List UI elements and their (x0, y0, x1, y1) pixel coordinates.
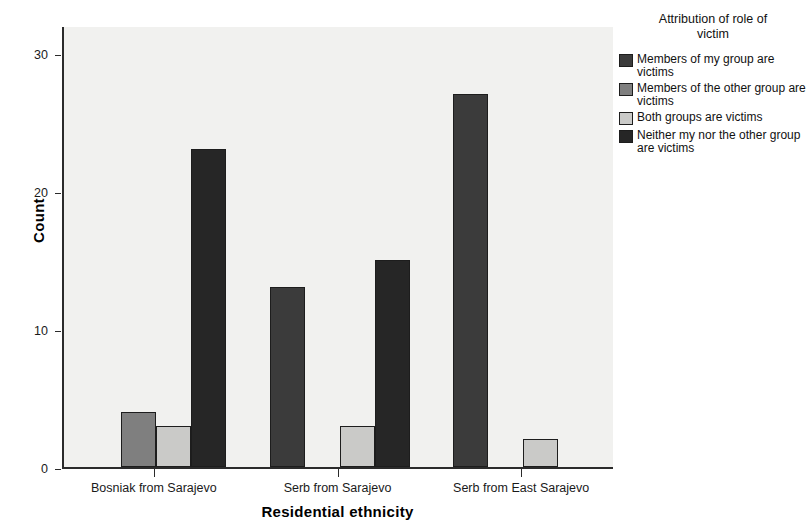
bar (191, 149, 226, 467)
legend-item[interactable]: Neither my nor the other group are victi… (619, 129, 809, 154)
y-tick-label: 10 (14, 324, 48, 338)
bar (523, 439, 558, 467)
bar (453, 94, 488, 467)
plot-area (62, 27, 613, 469)
legend-title-line-1: Attribution of role of (659, 12, 767, 26)
legend-items: Members of my group are victimsMembers o… (619, 53, 809, 154)
legend-item[interactable]: Members of the other group are victims (619, 82, 809, 107)
y-tick-mark (55, 193, 61, 194)
y-tick-label: 20 (14, 186, 48, 200)
legend-title: Attribution of role of victim (619, 12, 809, 42)
legend-item-label: Both groups are victims (637, 111, 762, 124)
legend-swatch-icon (619, 112, 633, 125)
legend-item-label: Neither my nor the other group are victi… (637, 129, 809, 154)
x-axis-title: Residential ethnicity (62, 503, 613, 520)
legend-item-label: Members of the other group are victims (637, 82, 809, 107)
y-tick-mark (55, 331, 61, 332)
bar (375, 260, 410, 467)
y-tick-label: 30 (14, 48, 48, 62)
legend-swatch-icon (619, 54, 633, 67)
x-tick-mark (338, 469, 339, 477)
y-tick-label: 0 (14, 462, 48, 476)
legend-swatch-icon (619, 83, 633, 96)
y-tick-mark (55, 55, 61, 56)
bar (121, 412, 156, 467)
legend-item[interactable]: Both groups are victims (619, 111, 809, 125)
bars-layer (64, 27, 613, 467)
legend-swatch-icon (619, 130, 633, 143)
legend: Attribution of role of victim Members of… (619, 12, 809, 158)
y-tick-mark (55, 469, 61, 470)
x-tick-label: Serb from East Sarajevo (453, 481, 589, 495)
bar (270, 287, 305, 467)
legend-title-line-2: victim (697, 27, 729, 41)
bar-chart: Count 0102030 Bosniak from SarajevoSerb … (0, 0, 809, 528)
x-tick-mark (521, 469, 522, 477)
bar (156, 426, 191, 467)
legend-item[interactable]: Members of my group are victims (619, 53, 809, 78)
x-tick-label: Serb from Sarajevo (284, 481, 392, 495)
legend-item-label: Members of my group are victims (637, 53, 809, 78)
y-axis-ticks: 0102030 (0, 0, 62, 528)
bar (340, 426, 375, 467)
x-tick-mark (154, 469, 155, 477)
x-tick-label: Bosniak from Sarajevo (91, 481, 217, 495)
